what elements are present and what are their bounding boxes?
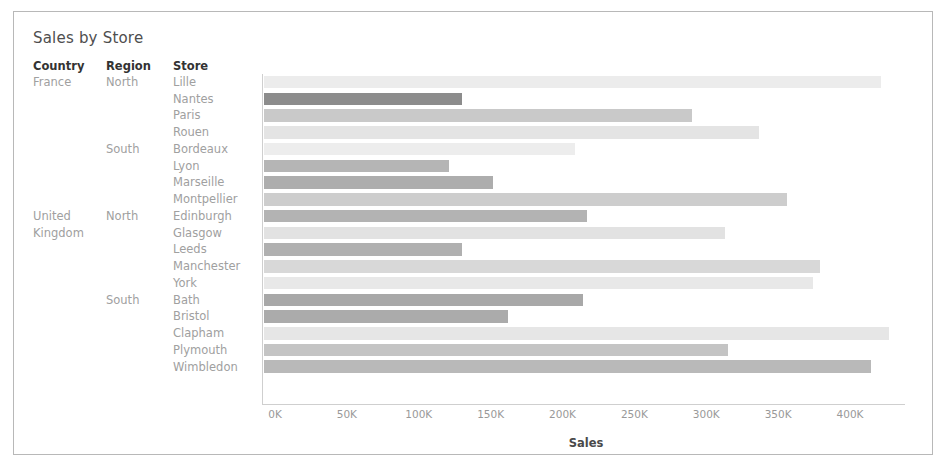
cell-store[interactable]: Plymouth — [173, 342, 227, 359]
cell-store[interactable]: Glasgow — [173, 225, 222, 242]
visualization-frame: Sales by Store Country Region Store Fran… — [13, 11, 933, 455]
cell-store[interactable]: Nantes — [173, 91, 214, 108]
x-tick-label: 250K — [621, 408, 648, 420]
cell-region[interactable]: South — [106, 141, 139, 158]
bar-lille[interactable] — [264, 76, 881, 89]
y-axis-line — [262, 74, 263, 404]
cell-store[interactable]: Bordeaux — [173, 141, 228, 158]
x-axis-title-label: Sales — [569, 436, 604, 450]
cell-store[interactable]: Rouen — [173, 124, 209, 141]
bar-bath[interactable] — [264, 294, 583, 307]
x-tick-label: 300K — [693, 408, 720, 420]
bar-nantes[interactable] — [264, 93, 462, 106]
cell-store[interactable]: Marseille — [173, 174, 224, 191]
cell-store[interactable]: York — [173, 275, 197, 292]
bar-wimbledon[interactable] — [264, 360, 871, 373]
cell-store[interactable]: Manchester — [173, 258, 240, 275]
cell-store[interactable]: Lille — [173, 74, 196, 91]
bar-marseille[interactable] — [264, 176, 493, 189]
x-tick-label: 50K — [337, 408, 357, 420]
bar-montpellier[interactable] — [264, 193, 787, 206]
cell-store[interactable]: Paris — [173, 107, 200, 124]
bar-edinburgh[interactable] — [264, 210, 587, 223]
cell-store[interactable]: Edinburgh — [173, 208, 232, 225]
cell-region[interactable]: South — [106, 292, 139, 309]
cell-store[interactable]: Wimbledon — [173, 359, 238, 376]
cell-store[interactable]: Lyon — [173, 158, 199, 175]
x-tick-label: 200K — [549, 408, 576, 420]
bar-plymouth[interactable] — [264, 344, 728, 357]
bar-rouen[interactable] — [264, 126, 759, 139]
x-axis-title: Sales — [262, 436, 922, 450]
bar-glasgow[interactable] — [264, 227, 725, 240]
cell-region[interactable]: North — [106, 74, 138, 91]
cell-store[interactable]: Bristol — [173, 308, 210, 325]
x-tick-label: 0K — [268, 408, 282, 420]
worksheet-title: Sales by Store — [33, 29, 143, 47]
bar-leeds[interactable] — [264, 243, 462, 256]
bar-bristol[interactable] — [264, 310, 508, 323]
column-header-country[interactable]: Country — [33, 59, 84, 73]
bar-bordeaux[interactable] — [264, 143, 575, 156]
cell-store[interactable]: Montpellier — [173, 191, 238, 208]
x-axis-line — [262, 404, 905, 405]
cell-country[interactable]: Kingdom — [33, 225, 84, 242]
cell-country[interactable]: France — [33, 74, 71, 91]
column-header-region[interactable]: Region — [106, 59, 151, 73]
cell-country[interactable]: United — [33, 208, 71, 225]
x-tick-label: 400K — [837, 408, 864, 420]
bar-paris[interactable] — [264, 109, 692, 122]
plot-area — [262, 74, 912, 404]
bar-manchester[interactable] — [264, 260, 820, 273]
cell-store[interactable]: Bath — [173, 292, 200, 309]
x-tick-label: 150K — [477, 408, 504, 420]
x-tick-label: 350K — [765, 408, 792, 420]
cell-store[interactable]: Clapham — [173, 325, 224, 342]
bar-clapham[interactable] — [264, 327, 889, 340]
bar-lyon[interactable] — [264, 160, 449, 173]
column-header-store[interactable]: Store — [173, 59, 208, 73]
x-tick-label: 100K — [405, 408, 432, 420]
cell-store[interactable]: Leeds — [173, 241, 207, 258]
bar-york[interactable] — [264, 277, 813, 290]
cell-region[interactable]: North — [106, 208, 138, 225]
x-axis[interactable]: 0K50K100K150K200K250K300K350K400K — [262, 404, 922, 426]
